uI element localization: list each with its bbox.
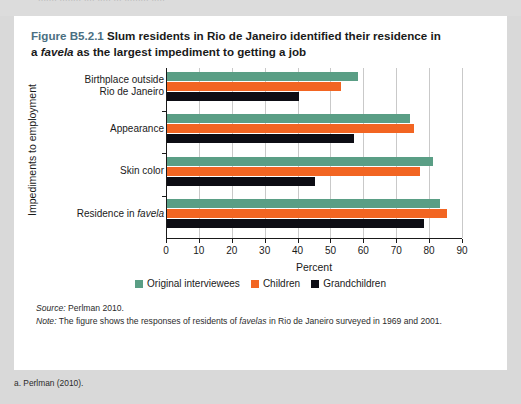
bar — [167, 82, 341, 91]
bar — [167, 114, 410, 123]
x-tick-label-60: 60 — [348, 245, 378, 256]
figure-title: Figure B5.2.1 Slum residents in Rio de J… — [31, 28, 493, 59]
figure-notes: Source: Perlman 2010. Note: The figure s… — [36, 303, 486, 328]
y-axis-label: Impediments to employment — [26, 70, 38, 230]
legend-swatch-icon — [311, 280, 319, 288]
figure-title-line2-pre: a — [31, 45, 41, 58]
y-tick-2 — [162, 153, 166, 154]
bar-group-container — [166, 68, 462, 238]
category-label-0: Birthplace outsideRio de Janeiro — [40, 74, 164, 97]
figure-number: Figure B5.2.1 — [31, 29, 104, 42]
legend-item-1[interactable]: Children — [251, 278, 300, 289]
figure-title-line1: Slum residents in Rio de Janeiro identif… — [107, 29, 441, 42]
bar — [167, 209, 447, 218]
source-label: Source: — [36, 303, 66, 313]
x-axis-line — [166, 238, 462, 239]
x-tick-label-10: 10 — [184, 245, 214, 256]
x-tick-label-80: 80 — [414, 245, 444, 256]
category-label-3: Residence in favela — [40, 208, 164, 220]
note-text-italic: favelas — [239, 316, 266, 326]
x-tick-label-40: 40 — [283, 245, 313, 256]
x-tick-70 — [396, 239, 397, 243]
y-tick-3 — [162, 196, 166, 197]
source-note: Source: Perlman 2010. — [36, 303, 486, 315]
legend-item-2[interactable]: Grandchildren — [311, 278, 386, 289]
x-tick-label-30: 30 — [250, 245, 280, 256]
x-tick-80 — [429, 239, 430, 243]
chart-legend: Original intervieweesChildrenGrandchildr… — [14, 278, 507, 289]
x-tick-label-90: 90 — [447, 245, 477, 256]
bar — [167, 92, 299, 101]
legend-label: Original interviewees — [147, 278, 240, 289]
figure-title-line2-post: as the largest impediment to getting a j… — [74, 45, 307, 58]
figure-card: Figure B5.2.1 Slum residents in Rio de J… — [14, 16, 507, 370]
category-labels: Birthplace outsideRio de JaneiroAppearan… — [40, 68, 164, 238]
gridline-90 — [462, 68, 463, 238]
bar — [167, 157, 433, 166]
x-tick-40 — [298, 239, 299, 243]
chart-plot-area: Impediments to employment Birthplace out… — [14, 68, 507, 268]
legend-swatch-icon — [135, 280, 143, 288]
page-footnote: a. Perlman (2010). — [14, 378, 494, 388]
source-text: Perlman 2010. — [66, 303, 124, 313]
legend-label: Grandchildren — [323, 278, 386, 289]
bar — [167, 177, 315, 186]
legend-item-0[interactable]: Original interviewees — [135, 278, 240, 289]
x-tick-label-50: 50 — [315, 245, 345, 256]
legend-label: Children — [263, 278, 300, 289]
note-text-pre: The figure shows the responses of reside… — [57, 316, 240, 326]
figure-note: Note: The figure shows the responses of … — [36, 316, 486, 328]
x-tick-90 — [462, 239, 463, 243]
category-label-1: Appearance — [40, 123, 164, 135]
y-tick-1 — [162, 111, 166, 112]
x-tick-10 — [199, 239, 200, 243]
chart-axes: 0102030405060708090 — [166, 68, 462, 238]
top-bleed-text: ....... ........ .... ..... ... ........… — [38, 0, 165, 3]
x-tick-60 — [363, 239, 364, 243]
bar — [167, 199, 440, 208]
x-tick-label-70: 70 — [381, 245, 411, 256]
category-label-2: Skin color — [40, 165, 164, 177]
x-tick-30 — [265, 239, 266, 243]
x-tick-label-20: 20 — [217, 245, 247, 256]
x-axis-label: Percent — [166, 261, 462, 273]
x-tick-label-0: 0 — [151, 245, 181, 256]
figure-title-italic: favela — [41, 45, 74, 58]
bar — [167, 219, 424, 228]
note-text-post: in Rio de Janeiro surveyed in 1969 and 2… — [267, 316, 442, 326]
page-top-bleed: ....... ........ .... ..... ... ........… — [0, 0, 521, 16]
bar — [167, 72, 358, 81]
x-tick-20 — [232, 239, 233, 243]
x-tick-50 — [330, 239, 331, 243]
note-label: Note: — [36, 316, 57, 326]
bar — [167, 124, 414, 133]
bar — [167, 134, 354, 143]
x-tick-0 — [166, 239, 167, 243]
legend-swatch-icon — [251, 280, 259, 288]
bar — [167, 167, 420, 176]
